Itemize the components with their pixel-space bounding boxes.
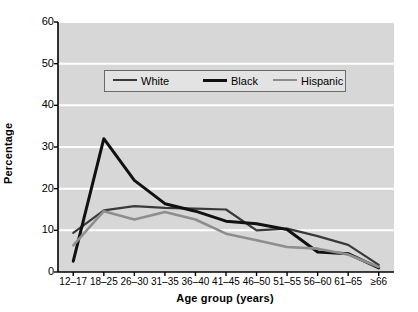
legend-swatch-line-icon bbox=[203, 79, 227, 82]
y-tick-label: 0 bbox=[28, 265, 54, 277]
chart-legend: WhiteBlackHispanic bbox=[104, 70, 346, 92]
chart-figure: Percentage Age group (years) 60504030201… bbox=[0, 0, 418, 312]
legend-label: Black bbox=[231, 75, 258, 87]
legend-item-hispanic: Hispanic bbox=[273, 74, 343, 90]
legend-swatch-line-icon bbox=[113, 79, 137, 81]
legend-swatch-line-icon bbox=[273, 79, 297, 81]
line-chart-plot bbox=[0, 0, 418, 312]
legend-label: White bbox=[141, 75, 169, 87]
x-tick-label: ≥66 bbox=[360, 276, 398, 287]
y-tick-label: 30 bbox=[28, 140, 54, 152]
y-tick-label: 10 bbox=[28, 223, 54, 235]
legend-label: Hispanic bbox=[301, 75, 343, 87]
y-tick-label: 20 bbox=[28, 182, 54, 194]
y-tick-label: 60 bbox=[28, 15, 54, 27]
legend-item-black: Black bbox=[203, 74, 258, 90]
y-tick-label: 40 bbox=[28, 98, 54, 110]
y-tick-label: 50 bbox=[28, 57, 54, 69]
legend-item-white: White bbox=[113, 74, 169, 90]
